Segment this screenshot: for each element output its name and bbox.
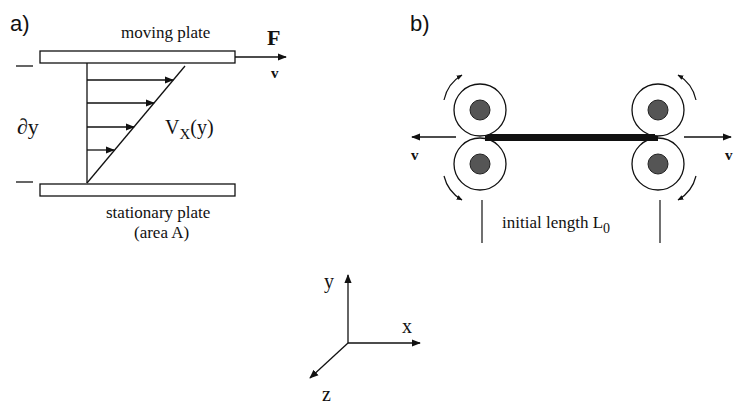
stationary-plate	[40, 184, 235, 196]
plate-velocity-label: v	[271, 65, 279, 81]
panel-b-label: b)	[410, 11, 430, 36]
z-axis-arrow	[310, 343, 348, 378]
panel-a-shear-flow: a) moving plate F v ∂y VX(y) stationary …	[10, 11, 286, 242]
z-axis-label: z	[322, 383, 331, 405]
left-velocity-label: v	[411, 147, 419, 163]
panel-a-label: a)	[10, 11, 30, 36]
gap-label: ∂y	[17, 114, 39, 139]
stationary-plate-area-label: (area A)	[134, 223, 189, 242]
velocity-vectors	[87, 80, 173, 150]
coordinate-axes: y x z	[310, 270, 420, 405]
moving-plate	[40, 51, 235, 63]
force-label: F	[267, 25, 280, 50]
velocity-profile-label: VX(y)	[165, 116, 214, 142]
roller-top-left	[454, 84, 506, 136]
panel-b-extensional-flow: b) v v	[410, 11, 733, 243]
roller-top-right	[632, 84, 684, 136]
roller-bottom-right	[632, 138, 684, 190]
y-axis-label: y	[324, 270, 334, 293]
moving-plate-label: moving plate	[121, 23, 210, 42]
filament-bar-overlay	[488, 134, 655, 141]
stationary-plate-label: stationary plate	[106, 203, 210, 222]
roller-bottom-left	[454, 138, 506, 190]
diagram-canvas: a) moving plate F v ∂y VX(y) stationary …	[0, 0, 748, 407]
x-axis-label: x	[402, 315, 412, 337]
right-velocity-label: v	[725, 147, 733, 163]
initial-length-label: initial length L0	[502, 213, 610, 236]
rotation-arrow-bottom-right-icon	[678, 176, 696, 200]
